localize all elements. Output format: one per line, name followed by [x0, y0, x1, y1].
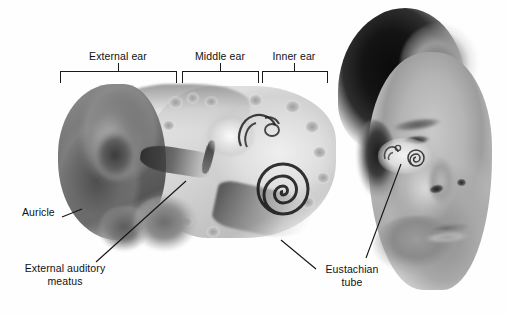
label-eustachian-tube-line2: tube	[318, 276, 386, 288]
label-eustachian-tube-line1: Eustachian	[318, 263, 386, 275]
leader-external-auditory-meatus	[96, 181, 186, 262]
label-external-ear: External ear	[68, 50, 168, 62]
label-auricle: Auricle	[22, 206, 55, 218]
label-inner-ear: Inner ear	[256, 50, 332, 62]
label-external-auditory-meatus-line2: meatus	[10, 275, 120, 287]
bracket-middle-ear	[182, 63, 258, 83]
label-middle-ear: Middle ear	[176, 50, 264, 62]
label-external-auditory-meatus-line1: External auditory	[10, 262, 120, 274]
leader-eustachian-tube-left	[281, 240, 316, 269]
bracket-external-ear	[60, 63, 176, 83]
leader-eustachian-tube-right	[366, 164, 401, 258]
leader-auricle	[62, 209, 82, 217]
bracket-inner-ear	[262, 63, 327, 83]
ear-anatomy-figure: External ear Middle ear Inner ear Auricl…	[0, 0, 507, 316]
